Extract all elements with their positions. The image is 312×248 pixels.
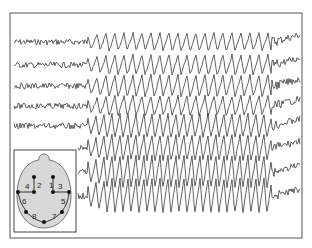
montage-inset: 1 2 3 4 5 6 7 8 [14, 150, 76, 232]
eeg-figure: 1 2 3 4 5 6 7 8 [0, 0, 312, 248]
electrode-icon [24, 210, 28, 214]
channel-label-8: 8 [32, 212, 37, 221]
channel-label-4: 4 [25, 182, 30, 191]
channel-label-7: 7 [52, 212, 57, 221]
channel-label-1: 1 [49, 181, 54, 190]
electrode-icon [32, 190, 36, 194]
channel-label-5: 5 [61, 197, 66, 206]
electrode-icon [42, 220, 46, 224]
eeg-plot: 1 2 3 4 5 6 7 8 [0, 0, 312, 248]
electrode-icon [67, 190, 71, 194]
electrode-icon [51, 190, 55, 194]
electrode-icon [32, 175, 36, 179]
electrode-icon [16, 190, 20, 194]
channel-label-2: 2 [37, 181, 42, 190]
electrode-icon [51, 175, 55, 179]
channel-label-3: 3 [58, 182, 63, 191]
channel-label-6: 6 [22, 197, 27, 206]
electrode-icon [60, 210, 64, 214]
